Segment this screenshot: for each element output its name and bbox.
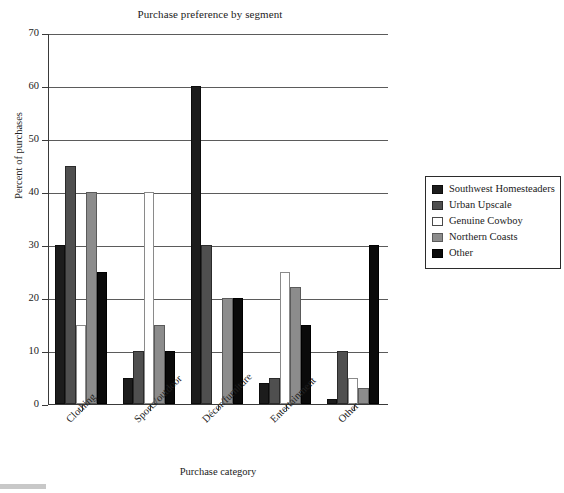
- legend-label: Southwest Homesteaders: [449, 184, 555, 195]
- bar-cluster: [123, 34, 176, 404]
- bar-cluster: [55, 34, 108, 404]
- y-tick-label: 50: [29, 133, 40, 144]
- bar: [280, 272, 291, 405]
- plot-area: [48, 34, 388, 405]
- legend-label: Northern Coasts: [449, 232, 518, 243]
- bar: [123, 378, 134, 405]
- y-axis: 010203040506070: [0, 34, 48, 405]
- bars-layer: [49, 34, 388, 404]
- bar: [259, 383, 270, 404]
- legend-item: Northern Coasts: [432, 230, 554, 245]
- bar: [133, 351, 144, 404]
- bar-cluster: [259, 34, 312, 404]
- x-axis-labels: ClothingSports/outdoorDécor/furnitureEnt…: [0, 405, 440, 475]
- bar: [86, 192, 97, 404]
- legend-label: Urban Upscale: [449, 200, 512, 211]
- x-axis-title: Purchase category: [48, 466, 388, 477]
- legend-item: Urban Upscale: [432, 198, 554, 213]
- legend-item: Southwest Homesteaders: [432, 182, 554, 197]
- bar: [201, 245, 212, 404]
- bar: [55, 245, 66, 404]
- chart-legend: Southwest HomesteadersUrban UpscaleGenui…: [425, 176, 561, 269]
- y-tick-label: 60: [29, 80, 40, 91]
- bar: [191, 86, 202, 404]
- y-axis-title: Percent of purchases: [13, 76, 24, 236]
- legend-swatch-icon: [432, 217, 443, 226]
- bar: [76, 325, 87, 405]
- y-tick-label: 20: [29, 292, 40, 303]
- legend-swatch-icon: [432, 201, 443, 210]
- bar: [369, 245, 380, 404]
- legend-item: Genuine Cowboy: [432, 214, 554, 229]
- bar: [358, 388, 369, 404]
- legend-swatch-icon: [432, 185, 443, 194]
- bar: [144, 192, 155, 404]
- bar: [337, 351, 348, 404]
- legend-swatch-icon: [432, 249, 443, 258]
- legend-label: Other: [449, 248, 473, 259]
- y-tick-label: 70: [29, 27, 40, 38]
- legend-swatch-icon: [432, 233, 443, 242]
- legend-label: Genuine Cowboy: [449, 216, 523, 227]
- bar-cluster: [327, 34, 380, 404]
- y-tick-label: 10: [29, 345, 40, 356]
- bar: [65, 166, 76, 405]
- bar: [97, 272, 108, 405]
- y-tick-label: 30: [29, 239, 40, 250]
- legend-item: Other: [432, 246, 554, 261]
- y-tick-label: 40: [29, 186, 40, 197]
- bar-cluster: [191, 34, 244, 404]
- bar: [327, 399, 338, 404]
- bar: [269, 378, 280, 405]
- chart-title: Purchase preference by segment: [0, 8, 420, 20]
- scan-artifact: [0, 484, 46, 489]
